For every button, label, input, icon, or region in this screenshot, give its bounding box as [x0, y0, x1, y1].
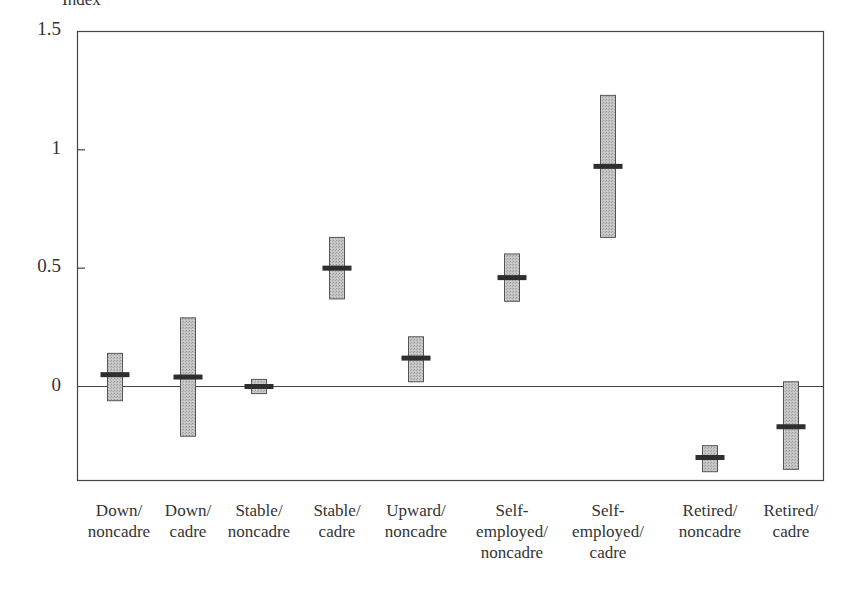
estimate-marker [498, 275, 527, 280]
x-tick-label: Stable/ cadre [292, 500, 382, 542]
estimate-marker [101, 372, 130, 377]
estimate-marker [696, 455, 725, 460]
y-axis-ticks [77, 150, 85, 268]
x-tick-label: Self- employed/ cadre [563, 500, 653, 563]
estimate-marker [174, 375, 203, 380]
y-tick-label: 0.5 [11, 255, 61, 277]
y-tick-label: 1.5 [11, 18, 61, 40]
estimate-marker [777, 424, 806, 429]
estimate-marker [594, 164, 623, 169]
y-axis-title: Index [62, 0, 101, 10]
estimate-marker [245, 384, 274, 389]
y-tick-label: 1 [11, 137, 61, 159]
x-tick-label: Retired/ cadre [746, 500, 836, 542]
x-tick-label: Stable/ noncadre [214, 500, 304, 542]
estimate-marker [323, 266, 352, 271]
estimate-marker [402, 356, 431, 361]
x-tick-label: Upward/ noncadre [371, 500, 461, 542]
interval-boxes [101, 95, 806, 471]
x-tick-label: Self- employed/ noncadre [467, 500, 557, 563]
x-tick-label: Retired/ noncadre [665, 500, 755, 542]
y-tick-label: 0 [11, 374, 61, 396]
